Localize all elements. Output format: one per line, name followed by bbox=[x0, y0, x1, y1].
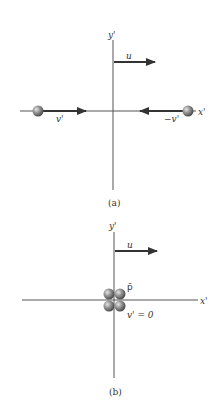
x-axis-label: x' bbox=[198, 107, 206, 117]
composite-particle-label: p̄ bbox=[127, 282, 133, 292]
panel-a: y' x' u v' −v' (a) bbox=[20, 30, 206, 208]
panel-b: y' x' u p̄ v' = 0 (b) bbox=[22, 221, 208, 397]
frame-velocity-label: u bbox=[126, 51, 132, 61]
x-axis-label: x' bbox=[200, 296, 208, 306]
left-particle-sphere-icon bbox=[33, 106, 44, 117]
caption-b: (b) bbox=[109, 387, 122, 397]
diagram-canvas: y' x' u v' −v' (a) y' x' u p̄ v' = 0 (b) bbox=[0, 0, 221, 401]
caption-a: (a) bbox=[108, 198, 120, 208]
sphere-icon bbox=[115, 301, 126, 312]
right-velocity-label: −v' bbox=[164, 114, 179, 124]
sphere-icon bbox=[115, 289, 126, 300]
composite-velocity-label: v' = 0 bbox=[127, 310, 154, 320]
frame-velocity-label: u bbox=[127, 240, 133, 250]
sphere-icon bbox=[104, 301, 115, 312]
left-velocity-label: v' bbox=[56, 114, 64, 124]
y-axis-label: y' bbox=[107, 30, 116, 40]
sphere-icon bbox=[104, 289, 115, 300]
right-particle-sphere-icon bbox=[183, 106, 194, 117]
y-axis-label: y' bbox=[108, 221, 117, 231]
